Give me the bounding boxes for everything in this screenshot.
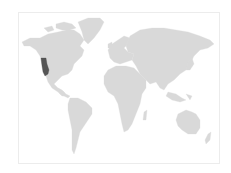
world-map[interactable] [0,0,231,173]
region-central-america[interactable] [58,88,70,98]
region-new-zealand[interactable] [205,132,211,144]
region-south-america[interactable] [68,98,92,154]
region-australia[interactable] [176,110,200,134]
region-africa[interactable] [104,66,146,132]
region-uk[interactable] [108,42,112,48]
region-north-america[interactable] [22,30,84,96]
region-madagascar[interactable] [143,110,147,120]
region-southeast-asia-islands[interactable] [166,92,192,102]
